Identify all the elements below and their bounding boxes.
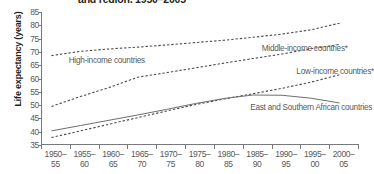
x-tick-label-line2: 05 bbox=[333, 160, 355, 170]
series-label: East and Southern African countries bbox=[250, 103, 372, 112]
x-tick-mark bbox=[41, 145, 42, 149]
x-tick-label-line2: 95 bbox=[275, 160, 297, 170]
x-tick-label: 1990–95 bbox=[275, 150, 297, 169]
series-lines bbox=[41, 12, 358, 145]
plot-area: 3540455055606570758085 1950–551955–60196… bbox=[41, 12, 358, 145]
x-tick-label: 1955–60 bbox=[73, 150, 95, 169]
x-tick-mark bbox=[243, 145, 244, 149]
series-label: High-income countries bbox=[69, 56, 145, 65]
x-tick-mark bbox=[99, 145, 100, 149]
x-tick-label: 1980–85 bbox=[217, 150, 239, 169]
x-tick-mark bbox=[185, 145, 186, 149]
x-tick-label-line2: 65 bbox=[102, 160, 124, 170]
x-tick-mark bbox=[156, 145, 157, 149]
x-tick-label: 2000–05 bbox=[333, 150, 355, 169]
x-tick-label: 1970–75 bbox=[160, 150, 182, 169]
x-tick-label: 1965–70 bbox=[131, 150, 153, 169]
x-tick-label-line2: 60 bbox=[73, 160, 95, 170]
x-tick-mark bbox=[127, 145, 128, 149]
series-line bbox=[51, 95, 339, 131]
chart-title: and region, 1950–2005 bbox=[78, 0, 318, 3]
y-axis-title: Life expectancy (years) bbox=[13, 0, 23, 119]
x-tick-label-line2: 85 bbox=[217, 160, 239, 170]
x-tick-mark bbox=[329, 145, 330, 149]
x-tick-label-line2: 70 bbox=[131, 160, 153, 170]
x-tick-label: 1960–65 bbox=[102, 150, 124, 169]
series-label: Middle-income countries* bbox=[262, 44, 348, 53]
x-tick-mark bbox=[70, 145, 71, 149]
x-tick-label: 1950–55 bbox=[45, 150, 67, 169]
series-label: Low-income countries* bbox=[296, 67, 374, 76]
x-tick-label-line2: 80 bbox=[189, 160, 211, 170]
x-tick-mark bbox=[272, 145, 273, 149]
x-tick-label-line2: 90 bbox=[246, 160, 268, 170]
x-tick-label-line2: 55 bbox=[45, 160, 67, 170]
x-tick-label-line2: 00 bbox=[304, 160, 326, 170]
x-tick-label: 1995–00 bbox=[304, 150, 326, 169]
x-tick-mark bbox=[358, 145, 359, 149]
x-tick-mark bbox=[300, 145, 301, 149]
x-tick-mark bbox=[214, 145, 215, 149]
x-tick-label-line2: 75 bbox=[160, 160, 182, 170]
x-tick-label: 1975–80 bbox=[189, 150, 211, 169]
x-tick-label: 1985–90 bbox=[246, 150, 268, 169]
